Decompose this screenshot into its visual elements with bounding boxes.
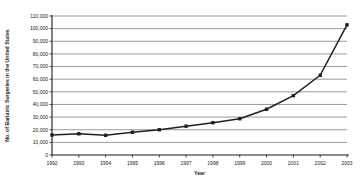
data-point-marker (265, 108, 268, 111)
data-point-marker (238, 117, 241, 120)
x-axis-tick-label: 2000 (261, 160, 272, 166)
y-axis-tick-label: 60,000 (33, 76, 49, 82)
data-point-marker (211, 121, 214, 124)
data-point-marker (318, 74, 321, 77)
x-axis-tick-labels-group: 1992199319941995199619971998199920002001… (46, 160, 352, 166)
chart-canvas: 010,00020,00030,00040,00050,00060,00070,… (0, 0, 360, 191)
y-axis-tick-label: 100,000 (30, 25, 48, 31)
x-axis-tick-label: 1992 (46, 160, 57, 166)
x-axis-tick-label: 2001 (288, 160, 299, 166)
y-axis-tick-labels-group: 010,00020,00030,00040,00050,00060,00070,… (30, 13, 48, 158)
y-axis-title: No. of Bariatric Surgeries in the United… (4, 29, 10, 142)
x-axis-tick-label: 1998 (207, 160, 218, 166)
data-point-marker (104, 134, 107, 137)
x-axis-title: Year (194, 170, 205, 176)
data-point-marker (158, 128, 161, 131)
y-axis-tick-label: 40,000 (33, 101, 49, 107)
y-axis-tick-label: 10,000 (33, 139, 49, 145)
data-point-marker (50, 133, 53, 136)
y-axis-tick-label: 30,000 (33, 114, 49, 120)
y-axis-tick-label: 80,000 (33, 51, 49, 57)
y-axis-tick-label: 50,000 (33, 89, 49, 95)
x-axis-tick-label: 1999 (234, 160, 245, 166)
data-point-marker (184, 124, 187, 127)
x-axis-tick-label: 1997 (181, 160, 192, 166)
bariatric-surgeries-line-chart: 010,00020,00030,00040,00050,00060,00070,… (0, 0, 360, 191)
y-axis-tick-label: 0 (45, 152, 48, 158)
x-axis-tick-label: 1995 (127, 160, 138, 166)
x-axis-tick-label: 1994 (100, 160, 111, 166)
y-axis-tick-label: 20,000 (33, 127, 49, 133)
data-point-markers-group (50, 23, 348, 137)
data-point-marker (345, 23, 348, 26)
x-axis-tick-label: 1996 (154, 160, 165, 166)
x-axis-tick-label: 2003 (341, 160, 352, 166)
data-point-marker (292, 94, 295, 97)
y-axis-tick-label: 70,000 (33, 63, 49, 69)
x-axis-tick-label: 1993 (73, 160, 84, 166)
y-axis-tick-label: 90,000 (33, 38, 49, 44)
y-axis-tick-label: 110,000 (30, 13, 48, 19)
data-point-marker (77, 132, 80, 135)
gridlines-group (52, 16, 347, 142)
x-axis-tick-label: 2002 (315, 160, 326, 166)
data-point-marker (131, 131, 134, 134)
